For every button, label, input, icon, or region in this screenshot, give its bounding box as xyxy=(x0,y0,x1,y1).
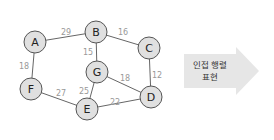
node-f: F xyxy=(20,78,42,100)
node-label: C xyxy=(145,42,153,55)
edge-weight-label: 18 xyxy=(120,74,130,83)
node-b: B xyxy=(85,21,107,43)
node-c: C xyxy=(138,37,160,59)
edge-weight-label: 18 xyxy=(19,62,29,71)
node-label: F xyxy=(28,83,34,96)
node-d: D xyxy=(140,86,162,108)
edge-weight-label: 16 xyxy=(118,28,128,37)
arrow-caption: 인접 행렬 표현 xyxy=(184,54,236,88)
node-label: D xyxy=(147,91,155,104)
arrow-caption-line1: 인접 행렬 xyxy=(193,59,228,71)
node-g: G xyxy=(86,61,108,83)
node-label: G xyxy=(93,66,102,79)
edge-weight-label: 25 xyxy=(79,87,89,96)
edge-weight-label: 22 xyxy=(110,98,120,107)
edge-weight-label: 27 xyxy=(56,89,66,98)
node-a: A xyxy=(24,31,46,53)
edge-weight-label: 12 xyxy=(152,71,162,80)
edge-weight-label: 15 xyxy=(83,48,93,57)
node-e: E xyxy=(76,98,98,120)
arrow-caption-line2: 표현 xyxy=(202,71,218,83)
node-label: E xyxy=(84,103,91,116)
node-label: B xyxy=(92,26,100,39)
node-label: A xyxy=(31,36,39,49)
edge-weight-label: 29 xyxy=(61,28,71,37)
graph-nodes: ABCDEFG xyxy=(20,21,162,120)
